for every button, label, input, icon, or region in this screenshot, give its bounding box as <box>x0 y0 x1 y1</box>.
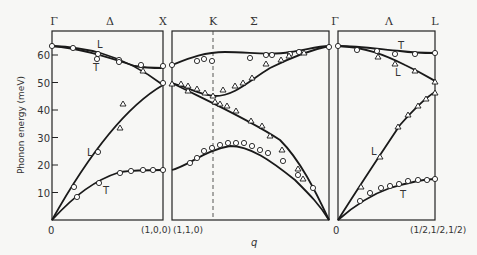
x-axis-label: q <box>251 237 257 248</box>
label-110: (1,1,0) <box>173 225 203 235</box>
tick-10: 10 <box>37 188 50 199</box>
label-origin-2: 0 <box>333 225 339 236</box>
p3-label-T-acoustic: T <box>399 189 407 200</box>
p2-markers <box>169 44 332 190</box>
label-k: K <box>209 15 218 28</box>
bottom-labels: 0 (1,0,0) (1,1,0) 0 (1/2,1/2,1/2) q <box>48 225 466 248</box>
label-gamma-1: Γ <box>50 15 58 28</box>
p1-L-optical <box>52 46 163 85</box>
label-x: X <box>159 15 167 28</box>
label-gamma-2: Γ <box>331 15 339 28</box>
label-l: L <box>431 15 439 28</box>
panel-gamma-l-frame <box>338 31 435 220</box>
tick-60: 60 <box>37 50 50 61</box>
p1-L-acoustic <box>52 85 163 220</box>
p3-label-T-optical: T <box>397 40 405 51</box>
panel-3-curves <box>338 46 435 220</box>
p1-label-T-acoustic: T <box>102 185 110 196</box>
label-half: (1/2,1/2,1/2) <box>410 225 466 235</box>
label-100: (1,0,0) <box>141 225 171 235</box>
p3-label-L-acoustic: L <box>371 146 377 157</box>
label-sigma: Σ <box>250 15 258 28</box>
p1-label-L-acoustic: L <box>87 147 93 158</box>
top-labels: Γ Δ X K Σ Γ Λ L <box>50 15 439 28</box>
panel-2-curves <box>172 46 329 220</box>
tick-50: 50 <box>37 78 50 89</box>
y-axis-tick-labels: 60 50 40 30 20 10 <box>37 50 50 199</box>
p1-label-L-optical: L <box>97 39 103 50</box>
tick-30: 30 <box>37 133 50 144</box>
p3-L-acoustic <box>338 92 435 220</box>
p1-T-optical <box>52 46 163 68</box>
tick-40: 40 <box>37 105 50 116</box>
p3-T-acoustic <box>338 179 435 220</box>
label-lambda: Λ <box>384 15 394 28</box>
tick-20: 20 <box>37 160 50 171</box>
label-origin-1: 0 <box>48 225 54 236</box>
p1-label-T-optical: T <box>92 62 100 73</box>
phonon-dispersion-chart: 60 50 40 30 20 10 Phonon energy (meV) Γ … <box>0 0 477 255</box>
y-axis-label: Phonon energy (meV) <box>16 76 26 174</box>
label-delta: Δ <box>106 15 114 28</box>
y-axis-ticks <box>52 55 58 193</box>
p3-label-L-optical: L <box>395 67 401 78</box>
p1-branch-labels: L T L T <box>87 39 110 196</box>
p3-L-optical <box>338 46 435 81</box>
